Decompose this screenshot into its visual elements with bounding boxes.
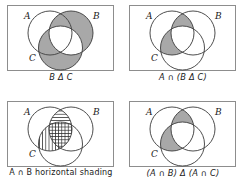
panel-caption: B Δ C [0, 72, 122, 82]
venn-panel-b-delta-c: A B C B Δ C [0, 0, 122, 96]
set-label-c: C [151, 53, 158, 63]
venn-figure: A B C [7, 101, 114, 167]
venn-figure: A B C [129, 101, 236, 167]
venn-panel-symmetric-difference-intersections: A B C (A ∩ B) Δ (A ∩ C) [122, 96, 244, 192]
set-label-b: B [92, 107, 100, 117]
set-label-a: A [23, 107, 31, 117]
set-label-a: A [145, 107, 153, 117]
venn-panel-a-cap-b-delta-c: A B C A ∩ (B Δ C) [122, 0, 244, 96]
set-label-a: A [145, 11, 153, 21]
set-label-c: C [151, 149, 158, 159]
panel-caption: A ∩ B horizontal shading [0, 168, 122, 177]
venn-diagram-grid: A B C B Δ C [0, 0, 244, 192]
set-label-b: B [92, 11, 100, 21]
set-label-c: C [29, 149, 36, 159]
panel-caption: (A ∩ B) Δ (A ∩ C) [122, 168, 244, 178]
venn-panel-a-cap-b-horizontal-shading: A B C A ∩ B horizontal shading [0, 96, 122, 192]
venn-figure: A B C [7, 5, 114, 71]
set-label-a: A [23, 11, 31, 21]
set-label-b: B [214, 107, 222, 117]
venn-figure: A B C [129, 5, 236, 71]
set-label-c: C [29, 53, 36, 63]
set-label-b: B [214, 11, 222, 21]
panel-caption: A ∩ (B Δ C) [122, 72, 244, 82]
